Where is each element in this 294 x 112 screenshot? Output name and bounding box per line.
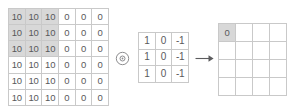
matrix-cell [236,78,253,96]
matrix-cell: 0 [156,50,173,67]
matrix-cell: 0 [59,74,76,90]
matrix-cell: -1 [172,66,189,83]
matrix-cell [270,42,287,60]
matrix-cell: 0 [59,90,76,106]
matrix-cell [219,78,236,96]
matrix-cell: 10 [26,90,43,106]
matrix-cell: 1 [139,66,156,83]
matrix-cell [253,42,270,60]
matrix-cell [253,24,270,42]
matrix-cell: 10 [9,25,26,41]
kernel-matrix: 10-110-110-1 [138,32,189,83]
matrix-cell: -1 [172,33,189,50]
matrix-cell [236,42,253,60]
matrix-cell: 10 [42,90,59,106]
matrix-cell: 10 [9,90,26,106]
matrix-cell: 0 [92,90,109,106]
matrix-cell: 10 [26,25,43,41]
matrix-cell: 0 [59,57,76,73]
matrix-cell: 0 [92,57,109,73]
matrix-cell: 10 [26,57,43,73]
matrix-cell: 10 [9,9,26,25]
matrix-cell: 10 [26,41,43,57]
matrix-cell [270,78,287,96]
matrix-cell: 0 [92,9,109,25]
matrix-cell: 0 [92,25,109,41]
matrix-cell: 0 [76,41,93,57]
matrix-cell: 10 [9,74,26,90]
matrix-cell: 10 [42,9,59,25]
matrix-cell: 10 [9,41,26,57]
matrix-cell: 0 [156,66,173,83]
matrix-cell: 0 [59,41,76,57]
matrix-cell: 1 [139,50,156,67]
matrix-cell: 10 [26,9,43,25]
convolution-diagram: 1010100001010100001010100001010100001010… [0,0,294,112]
matrix-cell: 10 [9,57,26,73]
matrix-cell: 0 [219,24,236,42]
matrix-cell: 10 [42,74,59,90]
convolution-operator-icon [114,50,131,67]
matrix-cell: 0 [59,25,76,41]
matrix-cell [253,60,270,78]
right-arrow-icon [194,51,214,65]
matrix-cell: 0 [76,74,93,90]
matrix-cell: 10 [42,25,59,41]
matrix-cell [253,78,270,96]
matrix-cell [236,24,253,42]
matrix-cell: 0 [59,9,76,25]
matrix-cell: 0 [92,41,109,57]
matrix-cell [236,60,253,78]
output-matrix: 0 [218,23,287,96]
matrix-cell: -1 [172,50,189,67]
matrix-cell: 10 [26,74,43,90]
matrix-cell [270,24,287,42]
matrix-cell: 10 [42,57,59,73]
matrix-cell: 10 [42,41,59,57]
matrix-cell: 0 [156,33,173,50]
matrix-cell [219,60,236,78]
input-matrix: 1010100001010100001010100001010100001010… [8,8,109,106]
matrix-cell: 1 [139,33,156,50]
matrix-cell: 0 [76,57,93,73]
matrix-cell: 0 [76,25,93,41]
matrix-cell: 0 [92,74,109,90]
matrix-cell: 0 [76,90,93,106]
matrix-cell [219,42,236,60]
matrix-cell [270,60,287,78]
matrix-cell: 0 [76,9,93,25]
